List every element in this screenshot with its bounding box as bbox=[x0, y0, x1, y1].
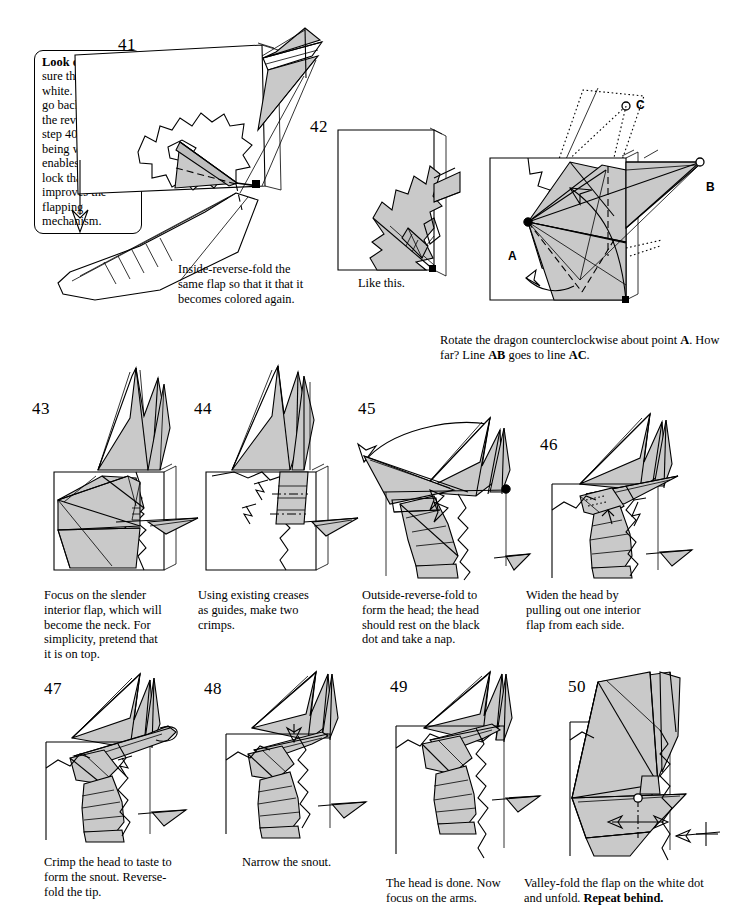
caption-step-50: Valley-fold the flap on the white dot an… bbox=[524, 876, 714, 906]
caption-part-bold: Repeat behind. bbox=[584, 891, 664, 905]
caption-step-43-row2: Focus on the slender interior flap, whic… bbox=[44, 588, 164, 662]
step-number-42: 42 bbox=[310, 118, 328, 135]
caption-step-45: Outside-reverse-fold to form the head; t… bbox=[362, 588, 484, 647]
caption-step-46: Widen the head by pulling out one interi… bbox=[526, 588, 656, 632]
caption-part: . bbox=[587, 348, 590, 362]
caption-part-bold: A bbox=[680, 333, 689, 347]
point-label-c: C bbox=[636, 98, 645, 112]
caption-step-43-top: Rotate the dragon counterclockwise about… bbox=[440, 333, 730, 363]
figure-step-50 bbox=[520, 672, 738, 872]
caption-part-bold: AB bbox=[488, 348, 505, 362]
figure-step-46 bbox=[520, 400, 720, 580]
caption-step-42: Like this. bbox=[358, 276, 405, 291]
caption-step-48: Narrow the snout. bbox=[242, 855, 331, 870]
caption-part-bold: AC bbox=[569, 348, 587, 362]
caption-step-44: Using existing creases as guides, make t… bbox=[198, 588, 320, 632]
point-label-b: B bbox=[706, 180, 715, 194]
caption-step-47: Crimp the head to taste to form the snou… bbox=[44, 855, 174, 899]
caption-step-41: Inside-reverse-fold the same flap so tha… bbox=[178, 262, 308, 306]
figure-step-47 bbox=[40, 672, 220, 852]
caption-part: Rotate the dragon counterclockwise about… bbox=[440, 333, 680, 347]
figure-step-48 bbox=[198, 672, 378, 852]
figure-step-43-row2 bbox=[40, 358, 210, 574]
caption-part: goes to line bbox=[505, 348, 568, 362]
figure-step-43-top bbox=[430, 70, 738, 330]
instruction-sheet: 41 Look out! Make sure the flap is white… bbox=[0, 0, 738, 924]
point-label-a: A bbox=[508, 249, 517, 263]
figure-step-45 bbox=[330, 400, 530, 580]
caption-step-49: The head is done. Now focus on the arms. bbox=[386, 876, 526, 906]
